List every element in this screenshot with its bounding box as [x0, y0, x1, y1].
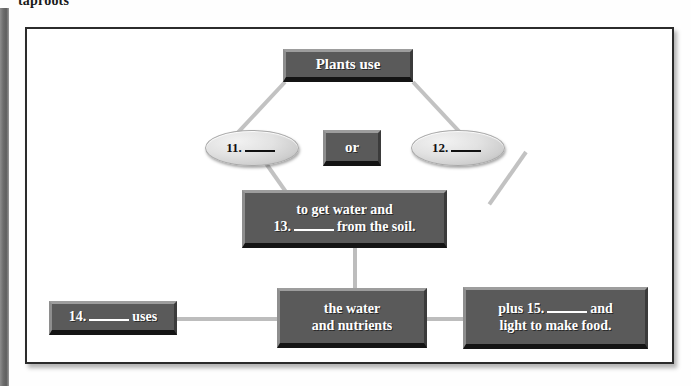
- node-soil-number: 13.: [273, 219, 291, 234]
- node-soil[interactable]: to get water and 13.from the soil.: [242, 190, 447, 248]
- node-option-right-12[interactable]: 12.: [411, 130, 505, 166]
- connector-water-nutrients-to-plus-light: [425, 317, 465, 321]
- node-option-left-blank[interactable]: [245, 150, 275, 152]
- node-uses-blank[interactable]: [89, 319, 129, 321]
- diagram-canvas: Plants use 11. or 12. to get water and: [27, 29, 672, 362]
- page-gutter-bar: [0, 8, 9, 386]
- node-uses-14[interactable]: 14.uses: [49, 301, 177, 335]
- node-soil-blank[interactable]: [294, 229, 334, 231]
- node-uses-text: 14.uses: [69, 308, 157, 326]
- node-plus-light-prefix: plus 15.: [498, 301, 544, 316]
- node-plants-use-label: Plants use: [316, 55, 381, 74]
- node-plus-light-line1: plus 15.and: [498, 300, 613, 318]
- node-plus-light-blank[interactable]: [547, 311, 587, 313]
- node-water-nutrients-line1: the water: [324, 300, 380, 318]
- node-plus-light-line1-suffix: and: [590, 301, 613, 316]
- connector-uses-to-water-nutrients: [175, 317, 279, 321]
- node-uses-number: 14.: [69, 309, 87, 324]
- node-soil-suffix: from the soil.: [337, 219, 416, 234]
- node-soil-line1: to get water and: [296, 201, 393, 219]
- node-option-right-number: 12.: [432, 140, 448, 155]
- node-water-nutrients-line2: and nutrients: [312, 317, 393, 335]
- node-or[interactable]: or: [323, 130, 381, 166]
- node-option-right-text: 12.: [432, 140, 484, 156]
- node-option-left-11[interactable]: 11.: [205, 130, 299, 166]
- node-plus-light-line2: light to make food.: [500, 317, 612, 335]
- node-plants-use[interactable]: Plants use: [283, 49, 413, 82]
- node-option-left-number: 11.: [226, 140, 242, 155]
- node-option-right-blank[interactable]: [451, 150, 481, 152]
- node-option-left-text: 11.: [226, 140, 278, 156]
- node-soil-line2: 13.from the soil.: [273, 218, 415, 236]
- page-caption-taproots: taproots: [18, 0, 69, 9]
- page-background: taproots Plants use: [0, 0, 691, 386]
- diagram-frame: Plants use 11. or 12. to get water and: [25, 27, 674, 364]
- node-water-nutrients[interactable]: the water and nutrients: [277, 288, 427, 348]
- node-uses-suffix: uses: [132, 309, 157, 324]
- node-plus-light-15[interactable]: plus 15.and light to make food.: [463, 287, 648, 349]
- node-or-label: or: [345, 138, 359, 157]
